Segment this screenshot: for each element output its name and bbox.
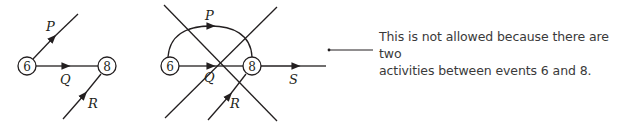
activity-p-edge: P — [33, 14, 78, 59]
activity-p-label: P — [45, 19, 55, 34]
activity-q-edge: Q — [36, 66, 98, 87]
right-diagram: P Q S R 6 8 — [161, 5, 326, 121]
annotation-pointer — [328, 49, 373, 52]
activity-p-arc: P — [168, 8, 252, 57]
svg-text:8: 8 — [248, 60, 256, 74]
activity-q-label: Q — [60, 72, 71, 87]
svg-text:6: 6 — [23, 60, 31, 74]
annotation-line-1: This is not allowed because there are tw… — [379, 28, 619, 62]
svg-text:8: 8 — [103, 60, 111, 74]
activity-r-label: R — [229, 96, 240, 111]
activity-p-label: P — [204, 8, 214, 23]
annotation-line-2: activities between events 6 and 8. — [379, 62, 619, 79]
event-node-6: 6 — [161, 57, 179, 75]
activity-r-label: R — [87, 96, 98, 111]
activity-s-label: S — [289, 72, 298, 87]
event-node-8: 8 — [243, 57, 261, 75]
svg-text:6: 6 — [166, 60, 174, 74]
left-diagram: P Q R 6 8 — [18, 14, 116, 119]
annotation-text: This is not allowed because there are tw… — [379, 28, 619, 79]
activity-s-edge: S — [261, 66, 326, 87]
event-node-8: 8 — [98, 57, 116, 75]
event-node-6: 6 — [18, 57, 36, 75]
